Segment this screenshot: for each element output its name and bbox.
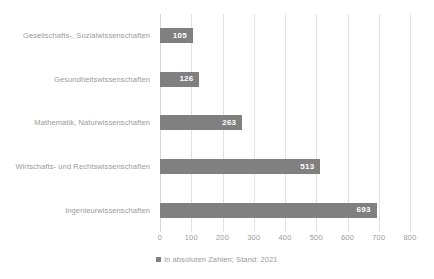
bar-value-label: 513: [300, 163, 314, 171]
bar-value-label: 693: [357, 206, 371, 214]
bar-row: 263: [160, 101, 410, 145]
bar-row: 693: [160, 188, 410, 232]
bar-value-label: 263: [222, 119, 236, 127]
bar-value-label: 126: [179, 75, 193, 83]
bar: 693: [160, 203, 377, 218]
bar-row: 105: [160, 14, 410, 58]
plot-area: 105126263513693: [160, 14, 410, 232]
bar-series: 105126263513693: [160, 14, 410, 232]
bar: 126: [160, 72, 199, 87]
x-tick-label: 600: [341, 233, 354, 242]
x-tick-label: 500: [310, 233, 323, 242]
bar: 513: [160, 159, 320, 174]
category-label: Mathematik, Naturwissenschaften: [34, 101, 150, 145]
category-label: Wirtschafts- und Rechtswissenschaften: [15, 145, 150, 189]
bar-row: 126: [160, 58, 410, 102]
bar-chart: 105126263513693 Gesellschafts-, Sozialwi…: [0, 0, 434, 279]
bar: 263: [160, 115, 242, 130]
category-label: Gesundheitswissenschaften: [54, 58, 150, 102]
legend-label: in absoluten Zahlen; Stand: 2021: [164, 255, 277, 264]
bar-row: 513: [160, 145, 410, 189]
x-tick-label: 800: [404, 233, 417, 242]
category-label: Ingenieurwissenschaften: [65, 188, 150, 232]
legend-swatch-icon: [156, 257, 161, 262]
x-tick-label: 200: [216, 233, 229, 242]
gridline: [410, 14, 411, 232]
x-tick-label: 0: [158, 233, 162, 242]
x-axis: 0100200300400500600700800: [160, 233, 410, 247]
category-label: Gesellschafts-, Sozialwissenschaften: [23, 14, 150, 58]
x-tick-label: 400: [279, 233, 292, 242]
bar: 105: [160, 28, 193, 43]
legend: in absoluten Zahlen; Stand: 2021: [0, 255, 434, 264]
x-tick-label: 700: [372, 233, 385, 242]
x-tick-label: 100: [185, 233, 198, 242]
x-tick-label: 300: [247, 233, 260, 242]
category-axis: Gesellschafts-, SozialwissenschaftenGesu…: [0, 14, 155, 232]
bar-value-label: 105: [173, 32, 187, 40]
